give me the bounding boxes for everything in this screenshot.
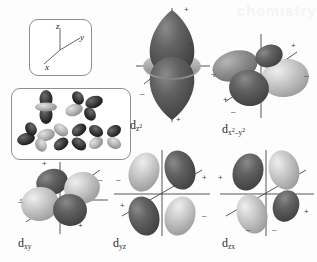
dyz-lobe-lower-left [124, 192, 165, 238]
d-orbital-figure: chemistry z y x [0, 0, 317, 262]
thumb-dxy [16, 120, 56, 154]
orbital-panel-dyz: – + + – [110, 150, 214, 240]
dyz-label-sub: yz [119, 242, 126, 251]
dx2y2-sign-1: + [291, 42, 296, 50]
thumb-dx2-y2 [64, 89, 105, 123]
dxy-label-sub: xy [24, 242, 32, 251]
dx2y2-sign-5: – [231, 108, 235, 116]
orbital-dzx-drawing [218, 150, 316, 238]
dxy-sign-1: + [42, 160, 47, 168]
dyz-lobe-upper-left [124, 150, 165, 196]
dzx-sign-1: + [218, 174, 223, 182]
dzx-sign-4: – [272, 226, 276, 234]
dz2-sign-ring-r: – [188, 40, 192, 48]
dzx-lobe-upper-right [264, 150, 304, 193]
thumbnail-orbitals [12, 89, 128, 157]
dxy-sign-3: – [18, 198, 22, 206]
thumb-dzx [87, 122, 123, 151]
thumb-dz2 [35, 90, 57, 124]
dz2-label-sup: 2 [139, 123, 142, 129]
orbital-dz2-drawing [126, 4, 218, 126]
dyz-lobe-upper-right [160, 150, 201, 194]
orbital-label-dz2: dz2 [130, 118, 142, 133]
dxy-sign-2: – [98, 176, 102, 184]
orbital-dxy-drawing [16, 160, 112, 236]
coordinate-axes-key: z y x [29, 19, 92, 76]
orbital-dyz-drawing [110, 150, 214, 238]
orbital-label-dzx: dzx [222, 236, 235, 251]
orbital-label-dyz: dyz [113, 236, 126, 251]
dz2-sign-ring-l: – [140, 90, 144, 98]
dz2-lobe-bottom [150, 57, 195, 120]
dyz-sign-1: – [116, 176, 120, 184]
axes-diagram: z y x [30, 20, 89, 73]
dzx-sign-3: – [246, 226, 250, 234]
orbital-dx2y2-drawing [209, 30, 313, 122]
axis-label-y: y [79, 32, 84, 42]
orbital-label-dx2-y2: dx2–y2 [222, 122, 245, 137]
axis-label-x: x [44, 62, 49, 72]
axis-label-z: z [55, 21, 60, 31]
dyz-sign-3: + [120, 202, 125, 210]
dz2-sign-top: + [184, 6, 189, 14]
dzx-lobe-upper-left [227, 150, 268, 195]
dzx-label-sub: zx [228, 242, 235, 251]
thumb-dyz [51, 121, 88, 153]
dzx-sign-2: + [304, 208, 309, 216]
dyz-sign-2: + [202, 174, 207, 182]
dz2-sign-bottom: + [176, 116, 181, 124]
orbital-panel-dx2-y2: + – – + – [209, 30, 313, 134]
dx2y2-sign-3: – [211, 70, 215, 78]
orbital-panel-dzx: + + – – [218, 150, 316, 240]
dx2y2-sign-4: + [223, 96, 228, 104]
dyz-sign-4: – [202, 212, 206, 220]
orbital-label-dxy: dxy [18, 236, 32, 251]
dx2y2-sign-2: – [304, 72, 308, 80]
dxy-sign-4: + [78, 222, 83, 230]
watermark-text: chemistry [237, 2, 313, 32]
dzx-lobe-lower-right [269, 187, 304, 225]
dyz-lobe-lower-right [160, 192, 201, 238]
orbital-panel-dxy: + – – + [16, 160, 112, 240]
